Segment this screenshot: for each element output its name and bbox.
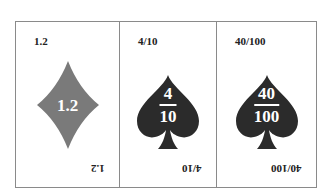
corner-label-bottom: 1.2 (91, 163, 105, 175)
corner-label-top: 4/10 (138, 35, 158, 47)
fraction-bar (254, 104, 280, 106)
fraction-value: 40 100 (254, 85, 280, 125)
card-spade-4-10[interactable]: 4/10 4 10 4/10 (119, 22, 216, 187)
card-row: 1.2 1.2 1.2 4/10 4 10 4/10 40/100 40 100… (15, 21, 317, 188)
card-spade-40-100[interactable]: 40/100 40 100 40/100 (216, 22, 316, 187)
corner-label-top: 1.2 (34, 35, 48, 47)
corner-label-bottom: 40/100 (271, 163, 302, 175)
corner-label-top: 40/100 (235, 35, 266, 47)
numerator: 4 (164, 85, 173, 102)
denominator: 100 (254, 108, 280, 125)
card-value: 1.2 (57, 96, 78, 113)
corner-label-bottom: 4/10 (182, 163, 202, 175)
fraction-value: 4 10 (160, 85, 177, 125)
fraction-bar (160, 104, 177, 106)
numerator: 40 (258, 85, 275, 102)
denominator: 10 (160, 108, 177, 125)
card-diamond[interactable]: 1.2 1.2 1.2 (16, 22, 119, 187)
